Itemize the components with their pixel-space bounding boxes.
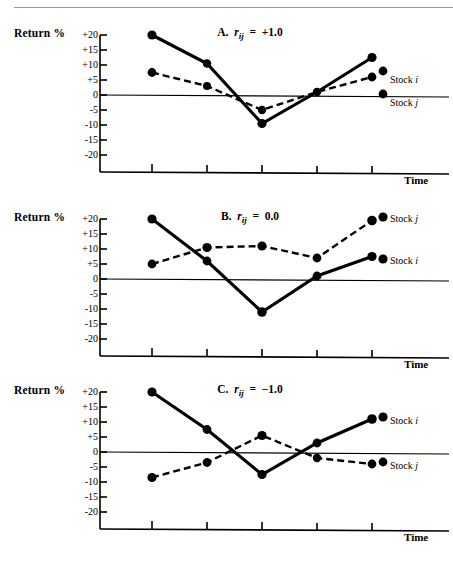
y-tick-a-0: +20 <box>68 29 98 40</box>
legend-marker-stock-i-a <box>379 67 388 76</box>
chart-panel-a: Return % A. rij = +1.0 Time Stock i Stoc… <box>0 22 453 198</box>
legend-marker-stock-i-c <box>378 412 387 421</box>
y-tick-b-7: -15 <box>68 318 98 329</box>
y-tick-a-2: +10 <box>68 59 98 70</box>
x-axis-b <box>100 348 449 358</box>
y-tick-c-4: 0 <box>68 446 98 457</box>
y-tick-a-7: -15 <box>68 134 98 145</box>
y-tick-c-1: +15 <box>68 401 98 412</box>
series-line-stock-i-b <box>152 219 372 312</box>
legend-marker-stock-j-c <box>379 458 388 467</box>
y-axis-a <box>100 35 107 172</box>
y-tick-a-3: +5 <box>68 74 98 85</box>
zero-line-b <box>100 279 449 281</box>
y-tick-b-0: +20 <box>68 213 98 224</box>
y-tick-a-4: 0 <box>68 89 98 100</box>
y-tick-b-4: 0 <box>68 273 98 284</box>
y-tick-a-5: -5 <box>68 104 98 115</box>
y-tick-c-2: +10 <box>68 416 98 427</box>
legend-marker-stock-i-b <box>378 254 387 263</box>
zero-line-c <box>100 452 449 454</box>
y-tick-b-1: +15 <box>68 228 98 239</box>
y-tick-c-5: -5 <box>68 461 98 472</box>
legend-marker-stock-j-b <box>378 212 387 221</box>
y-tick-b-3: +5 <box>68 258 98 269</box>
x-axis-c <box>100 521 449 531</box>
x-axis-a <box>100 164 449 174</box>
y-tick-b-5: -5 <box>68 288 98 299</box>
chart-panel-b: Return % B. rij = 0.0 Time Stock j Stock… <box>0 206 453 382</box>
y-tick-a-6: -10 <box>68 119 98 130</box>
y-tick-c-0: +20 <box>68 386 98 397</box>
y-tick-b-2: +10 <box>68 243 98 254</box>
y-tick-c-3: +5 <box>68 431 98 442</box>
y-tick-a-1: +15 <box>68 44 98 55</box>
y-tick-b-6: -10 <box>68 303 98 314</box>
y-tick-b-8: -20 <box>68 333 98 344</box>
y-tick-c-8: -20 <box>68 506 98 517</box>
chart-panel-c: Return % C. rij = −1.0 Time Stock i Stoc… <box>0 379 453 555</box>
y-axis-c <box>100 392 107 529</box>
y-tick-c-7: -15 <box>68 491 98 502</box>
zero-line-a <box>100 95 449 97</box>
top-divider-rule <box>14 7 453 8</box>
y-axis-b <box>100 219 107 356</box>
y-tick-c-6: -10 <box>68 476 98 487</box>
legend-marker-stock-j-a <box>379 90 388 99</box>
y-tick-a-8: -20 <box>68 149 98 160</box>
